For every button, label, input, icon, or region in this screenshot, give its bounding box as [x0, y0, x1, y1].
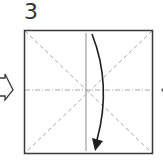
fold-arrow-icon — [92, 34, 103, 151]
next-step-marker-icon — [161, 88, 163, 92]
origami-diagram — [0, 0, 163, 164]
diagonal-creases — [25, 31, 152, 153]
step-arrow-icon — [0, 74, 13, 100]
